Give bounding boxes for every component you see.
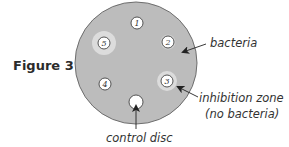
- inhibition-zone-label: inhibition zone: [199, 91, 284, 105]
- disc-2-label: 2: [164, 38, 170, 47]
- control-disc-label: control disc: [106, 131, 173, 145]
- disc-4-label: 4: [101, 80, 107, 89]
- figure-label: Figure 3: [13, 58, 74, 73]
- disc-1: 1: [131, 17, 143, 29]
- disc-5-label: 5: [101, 39, 106, 48]
- disc-4: 4: [99, 78, 111, 90]
- disc-3: 3: [161, 75, 173, 87]
- figure-3-diagram: Figure 3 1 2 3 4 5 bacteria inhibition z…: [0, 0, 289, 147]
- disc-5: 5: [98, 37, 110, 49]
- disc-3-label: 3: [164, 77, 169, 86]
- disc-2: 2: [162, 36, 174, 48]
- no-bacteria-label: (no bacteria): [205, 107, 279, 121]
- bacteria-label: bacteria: [210, 36, 257, 50]
- disc-1-label: 1: [134, 19, 139, 28]
